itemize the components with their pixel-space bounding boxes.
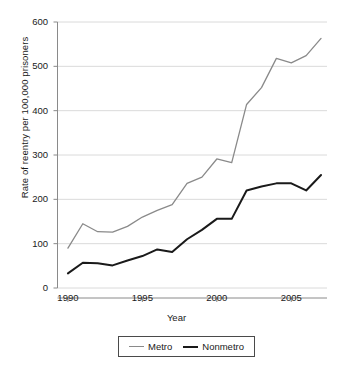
x-tick-label: 2000 <box>197 292 237 303</box>
chart-legend: MetroNonmetro <box>118 336 255 357</box>
legend-item-metro[interactable]: Metro <box>129 341 172 352</box>
series-line-metro <box>68 38 321 248</box>
legend-line-swatch-nonmetro <box>183 346 198 348</box>
x-tick-marks <box>68 298 291 302</box>
plot-area <box>0 0 353 376</box>
axis-lines <box>58 22 328 298</box>
legend-line-swatch-metro <box>129 346 144 347</box>
legend-label-metro: Metro <box>148 341 172 352</box>
y-tick-marks <box>54 22 58 288</box>
line-chart-figure: Rate of reentry per 100,000 prisoners 01… <box>0 0 353 376</box>
series-line-nonmetro <box>68 175 321 273</box>
x-tick-label: 1990 <box>48 292 88 303</box>
data-series <box>68 38 321 273</box>
legend-item-nonmetro[interactable]: Nonmetro <box>183 341 244 352</box>
x-tick-label: 1995 <box>122 292 162 303</box>
legend-label-nonmetro: Nonmetro <box>202 341 244 352</box>
x-tick-label: 2005 <box>271 292 311 303</box>
